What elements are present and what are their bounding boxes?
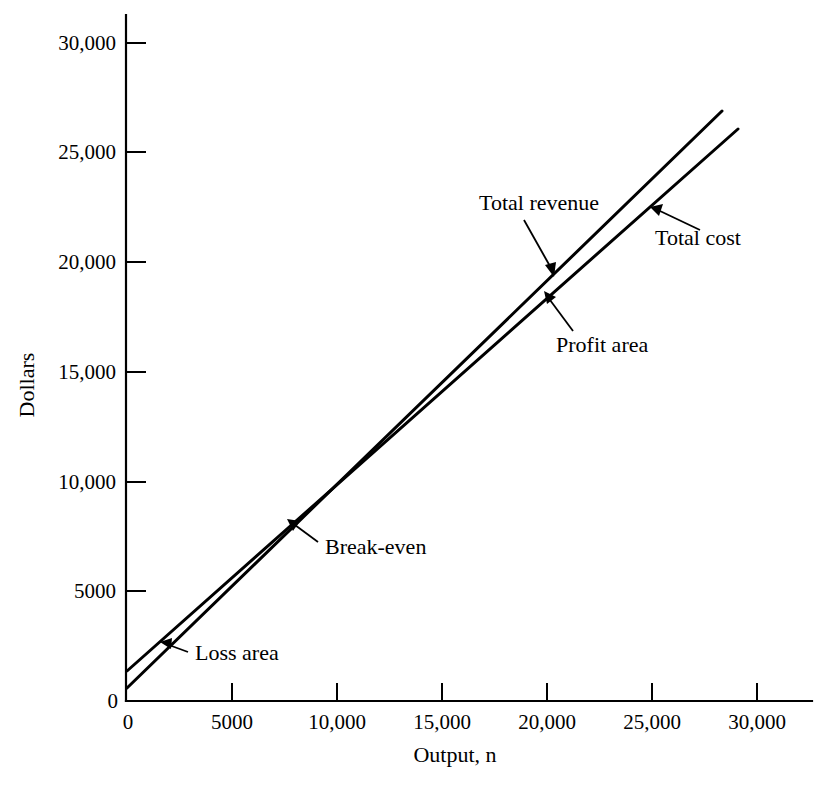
x-ticklabel-5000: 5000 — [211, 710, 253, 734]
y-ticklabel-25000: 25,000 — [58, 140, 116, 164]
annotation-label-break-even: Break-even — [325, 534, 426, 559]
annotation-leader-break-even — [295, 525, 318, 542]
y-ticklabel-5000: 5000 — [74, 579, 116, 603]
y-axis: 30,000 25,000 20,000 15,000 10,000 5000 … — [14, 15, 146, 713]
annotation-break-even: Break-even — [287, 519, 426, 559]
x-ticklabel-20000: 20,000 — [518, 710, 576, 734]
y-ticklabel-15000: 15,000 — [58, 360, 116, 384]
annotation-loss-area: Loss area — [160, 638, 279, 665]
x-ticklabel-0: 0 — [123, 710, 134, 734]
annotation-label-total-revenue: Total revenue — [479, 190, 599, 215]
data-series-group — [127, 111, 738, 688]
x-ticklabel-30000: 30,000 — [728, 710, 786, 734]
annotation-label-loss-area: Loss area — [195, 640, 279, 665]
x-ticklabel-25000: 25,000 — [623, 710, 681, 734]
y-ticklabel-20000: 20,000 — [58, 250, 116, 274]
x-ticklabel-15000: 15,000 — [413, 710, 471, 734]
annotation-total-cost: Total cost — [650, 204, 741, 250]
annotation-profit-area: Profit area — [544, 291, 648, 357]
annotation-leader-loss-area — [169, 645, 188, 652]
x-ticklabel-10000: 10,000 — [308, 710, 366, 734]
chart-svg: 30,000 25,000 20,000 15,000 10,000 5000 … — [0, 0, 835, 786]
y-ticklabel-30000: 30,000 — [58, 31, 116, 55]
series-line-total-revenue — [127, 111, 722, 688]
annotation-leader-profit-area — [550, 300, 573, 331]
x-axis-title: Output, n — [413, 742, 496, 767]
annotation-label-profit-area: Profit area — [556, 332, 648, 357]
breakeven-chart-figure: 30,000 25,000 20,000 15,000 10,000 5000 … — [0, 0, 835, 786]
y-ticklabel-10000: 10,000 — [58, 470, 116, 494]
x-axis: 0 5000 10,000 15,000 20,000 25,000 30,00… — [123, 683, 812, 767]
series-line-total-cost — [127, 129, 738, 671]
annotation-leader-total-revenue — [524, 220, 551, 268]
y-ticklabel-0: 0 — [108, 689, 119, 713]
y-axis-title: Dollars — [14, 353, 39, 418]
annotation-total-revenue: Total revenue — [479, 190, 599, 277]
